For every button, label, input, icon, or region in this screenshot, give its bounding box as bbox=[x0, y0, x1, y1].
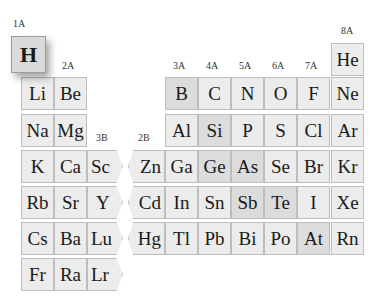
element-po: Po bbox=[264, 222, 297, 255]
element-f: F bbox=[297, 77, 330, 110]
element-se: Se bbox=[264, 150, 297, 183]
element-ca: Ca bbox=[54, 150, 87, 183]
element-xe: Xe bbox=[331, 186, 364, 219]
element-o: O bbox=[264, 77, 297, 110]
group-label-2a: 2A bbox=[62, 60, 74, 71]
element-at: At bbox=[297, 222, 330, 255]
element-k: K bbox=[21, 150, 54, 183]
element-h: H bbox=[11, 36, 46, 73]
element-lu: Lu bbox=[87, 222, 123, 255]
element-na: Na bbox=[21, 114, 54, 147]
element-cl: Cl bbox=[297, 114, 330, 147]
element-sb: Sb bbox=[231, 186, 264, 219]
element-fr: Fr bbox=[21, 258, 54, 291]
element-rn: Rn bbox=[331, 222, 364, 255]
element-in: In bbox=[165, 186, 198, 219]
group-label-4a: 4A bbox=[206, 60, 218, 71]
element-sn: Sn bbox=[198, 186, 231, 219]
element-n: N bbox=[231, 77, 264, 110]
element-p: P bbox=[231, 114, 264, 147]
element-hg: Hg bbox=[128, 222, 165, 255]
group-label-5a: 5A bbox=[239, 60, 251, 71]
group-label-2b: 2B bbox=[138, 132, 150, 143]
element-te: Te bbox=[264, 186, 297, 219]
element-i: I bbox=[297, 186, 330, 219]
element-tl: Tl bbox=[165, 222, 198, 255]
element-sc: Sc bbox=[87, 150, 123, 183]
group-label-3a: 3A bbox=[173, 60, 185, 71]
element-ge: Ge bbox=[198, 150, 231, 183]
element-si: Si bbox=[198, 114, 231, 147]
element-cs: Cs bbox=[21, 222, 54, 255]
element-pb: Pb bbox=[198, 222, 231, 255]
element-br: Br bbox=[297, 150, 330, 183]
element-he: He bbox=[331, 43, 364, 76]
element-mg: Mg bbox=[54, 114, 87, 147]
element-as: As bbox=[231, 150, 264, 183]
group-label-1a: 1A bbox=[13, 18, 25, 29]
group-label-3b: 3B bbox=[96, 132, 108, 143]
group-label-7a: 7A bbox=[305, 60, 317, 71]
element-s: S bbox=[264, 114, 297, 147]
element-ga: Ga bbox=[165, 150, 198, 183]
element-b: B bbox=[165, 77, 198, 110]
element-kr: Kr bbox=[331, 150, 364, 183]
element-sr: Sr bbox=[54, 186, 87, 219]
element-cd: Cd bbox=[128, 186, 165, 219]
group-label-8a: 8A bbox=[341, 25, 353, 36]
element-ar: Ar bbox=[331, 114, 364, 147]
element-bi: Bi bbox=[231, 222, 264, 255]
element-c: C bbox=[198, 77, 231, 110]
element-ra: Ra bbox=[54, 258, 87, 291]
element-y: Y bbox=[87, 186, 123, 219]
element-rb: Rb bbox=[21, 186, 54, 219]
element-be: Be bbox=[54, 77, 87, 110]
element-lr: Lr bbox=[87, 258, 123, 291]
element-ne: Ne bbox=[331, 77, 364, 110]
element-al: Al bbox=[165, 114, 198, 147]
group-label-6a: 6A bbox=[272, 60, 284, 71]
element-zn: Zn bbox=[128, 150, 165, 183]
element-ba: Ba bbox=[54, 222, 87, 255]
element-li: Li bbox=[21, 77, 54, 110]
